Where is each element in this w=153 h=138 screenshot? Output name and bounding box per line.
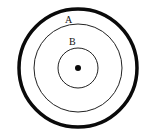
- label-b: B: [69, 36, 76, 47]
- center-dot: [75, 65, 81, 71]
- label-a: A: [65, 14, 73, 25]
- concentric-circles-diagram: A B: [0, 0, 153, 138]
